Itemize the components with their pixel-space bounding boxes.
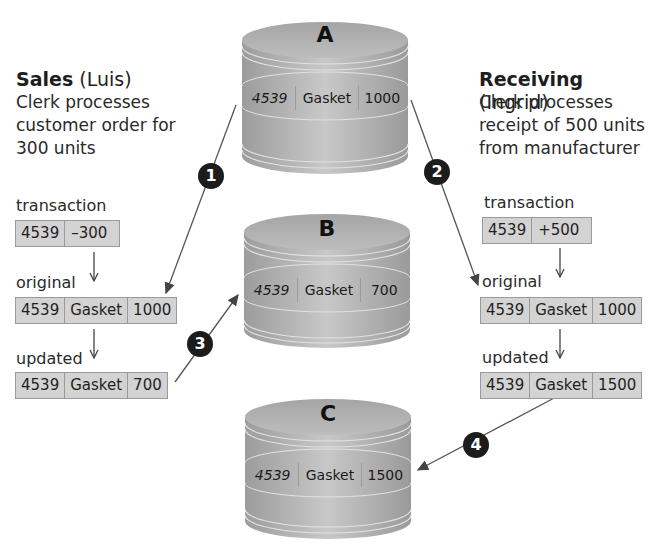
record-cell: +500 <box>532 218 591 243</box>
record-cell: 1000 <box>593 298 641 323</box>
record-cell: 1500 <box>593 373 641 398</box>
database-label: B <box>242 216 412 241</box>
down-arrow-icon <box>555 248 565 278</box>
receiving-updated-label: updated <box>482 348 549 367</box>
record-cell: Gasket <box>530 373 593 398</box>
database-a: A 4539 Gasket 1000 <box>240 16 410 152</box>
receiving-desc-line: receipt of 500 units <box>479 114 645 137</box>
sales-description: Clerk processes customer order for 300 u… <box>16 91 176 160</box>
receiving-desc-line: Clerk processes <box>479 91 645 114</box>
receiving-transaction-record: 4539 +500 <box>482 217 592 244</box>
record-cell: 4539 <box>244 86 296 110</box>
database-record: 4539 Gasket 1000 <box>244 86 406 110</box>
receiving-original-record: 4539 Gasket 1000 <box>480 297 642 324</box>
database-label: A <box>240 22 410 47</box>
down-arrow-icon <box>555 329 565 359</box>
receiving-updated-record: 4539 Gasket 1500 <box>480 372 642 399</box>
step-4-badge: 4 <box>463 432 489 458</box>
record-cell: Gasket <box>299 463 361 487</box>
receiving-title: Receiving <box>479 68 583 90</box>
record-cell: 4539 <box>16 298 65 323</box>
receiving-desc-line: from manufacturer <box>479 137 645 160</box>
step-3-badge: 3 <box>187 331 213 357</box>
record-cell: Gasket <box>298 278 360 302</box>
sales-desc-line: customer order for <box>16 114 176 137</box>
record-cell: 4539 <box>481 373 530 398</box>
sales-transaction-record: 4539 –300 <box>15 220 120 247</box>
database-b: B 4539 Gasket 700 <box>242 208 412 344</box>
sales-original-label: original <box>16 273 76 292</box>
receiving-transaction-label: transaction <box>484 193 574 212</box>
sales-updated-label: updated <box>16 349 83 368</box>
sales-transaction-label: transaction <box>16 196 106 215</box>
record-cell: 4539 <box>483 218 532 243</box>
record-cell: 4539 <box>16 221 65 246</box>
record-cell: 4539 <box>247 463 299 487</box>
record-cell: 700 <box>128 373 167 398</box>
sales-heading: Sales (Luis) <box>16 68 132 91</box>
record-cell: 1000 <box>128 298 176 323</box>
record-cell: 1000 <box>359 86 406 110</box>
database-c: C 4539 Gasket 1500 <box>243 393 413 529</box>
record-cell: 1500 <box>362 463 409 487</box>
sales-updated-record: 4539 Gasket 700 <box>15 372 168 399</box>
database-record: 4539 Gasket 700 <box>246 278 408 302</box>
record-cell: 700 <box>361 278 408 302</box>
record-cell: –300 <box>65 221 119 246</box>
sales-original-record: 4539 Gasket 1000 <box>15 297 177 324</box>
record-cell: Gasket <box>296 86 358 110</box>
record-cell: Gasket <box>530 298 593 323</box>
step-2-badge: 2 <box>424 159 450 185</box>
sales-title: Sales <box>16 68 73 90</box>
sales-desc-line: Clerk processes <box>16 91 176 114</box>
database-record: 4539 Gasket 1500 <box>247 463 409 487</box>
step-1-badge: 1 <box>198 163 224 189</box>
record-cell: Gasket <box>65 373 128 398</box>
record-cell: 4539 <box>246 278 298 302</box>
down-arrow-icon <box>89 252 99 282</box>
receiving-original-label: original <box>482 272 542 291</box>
sales-desc-line: 300 units <box>16 137 176 160</box>
receiving-description: Clerk processes receipt of 500 units fro… <box>479 91 645 160</box>
record-cell: Gasket <box>65 298 128 323</box>
record-cell: 4539 <box>481 298 530 323</box>
sales-actor: (Luis) <box>79 68 131 90</box>
record-cell: 4539 <box>16 373 65 398</box>
database-label: C <box>243 401 413 426</box>
down-arrow-icon <box>89 329 99 359</box>
